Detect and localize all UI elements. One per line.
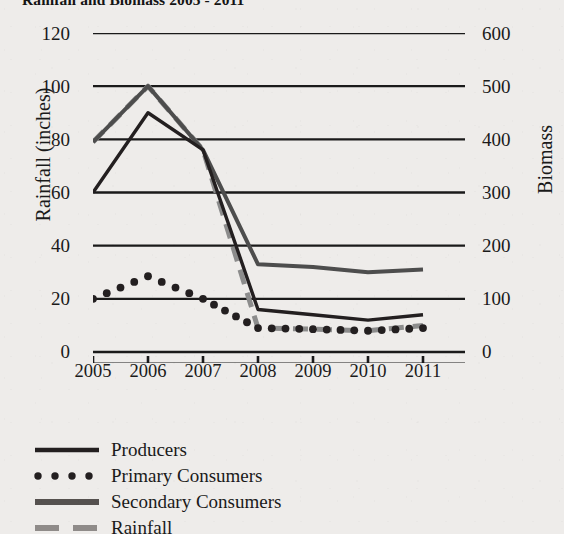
- y-tick-right-500: 500: [482, 77, 528, 96]
- legend-item-primary-consumers: Primary Consumers: [33, 463, 453, 489]
- y-tick-left-60: 60: [24, 183, 70, 202]
- datapoint-primary-consumers: [268, 324, 276, 332]
- y-tick-left-40: 40: [24, 236, 70, 255]
- legend-swatch-primary-consumers: [33, 463, 107, 489]
- datapoint-primary-consumers: [210, 301, 218, 309]
- y-tick-right-400: 400: [482, 130, 528, 149]
- datapoint-primary-consumers: [130, 278, 138, 286]
- datapoint-primary-consumers: [172, 284, 180, 292]
- y-tick-left-0: 0: [24, 342, 70, 361]
- y-tick-left-120: 120: [24, 24, 70, 43]
- plot-area: [93, 33, 465, 352]
- chart-legend: Producers Primary Consumers Secondary Co…: [33, 437, 453, 534]
- datapoint-primary-consumers: [199, 295, 207, 303]
- y-tick-right-600: 600: [482, 24, 528, 43]
- datapoint-primary-consumers: [378, 326, 386, 334]
- series-line-producers: [93, 113, 423, 320]
- datapoint-primary-consumers: [419, 324, 427, 332]
- datapoint-primary-consumers: [337, 326, 345, 334]
- chart-figure: Rainfall and Biomass 2005 - 2011 Rainfal…: [0, 0, 564, 534]
- datapoint-primary-consumers: [392, 326, 400, 334]
- y-tick-right-200: 200: [482, 236, 528, 255]
- datapoint-primary-consumers: [158, 278, 166, 286]
- datapoint-primary-consumers: [185, 289, 193, 297]
- plot-svg: [93, 33, 465, 363]
- y-tick-right-100: 100: [482, 289, 528, 308]
- legend-label-secondary-consumers: Secondary Consumers: [107, 492, 281, 512]
- legend-label-producers: Producers: [107, 440, 187, 460]
- datapoint-primary-consumers: [323, 326, 331, 334]
- datapoint-primary-consumers: [243, 318, 251, 326]
- legend-swatch-secondary-consumers: [33, 489, 107, 515]
- legend-item-secondary-consumers: Secondary Consumers: [33, 489, 453, 515]
- y-tick-right-0: 0: [482, 342, 528, 361]
- datapoint-primary-consumers: [309, 325, 317, 333]
- legend-label-rainfall: Rainfall: [107, 518, 172, 534]
- y-axis-right-ticks: 600 500 400 300 200 100 0: [482, 0, 542, 534]
- datapoint-primary-consumers: [350, 326, 358, 334]
- datapoint-primary-consumers: [221, 307, 229, 315]
- legend-swatch-producers: [33, 437, 107, 463]
- datapoint-primary-consumers: [364, 327, 372, 335]
- legend-item-producers: Producers: [33, 437, 453, 463]
- x-tick-2011: 2011: [388, 362, 458, 381]
- legend-item-rainfall: Rainfall: [33, 515, 453, 534]
- datapoint-primary-consumers: [282, 325, 290, 333]
- datapoint-primary-consumers: [93, 295, 97, 303]
- datapoint-primary-consumers: [117, 284, 125, 292]
- datapoint-primary-consumers: [254, 324, 262, 332]
- y-tick-left-100: 100: [24, 77, 70, 96]
- legend-label-primary-consumers: Primary Consumers: [107, 466, 262, 486]
- y-tick-right-300: 300: [482, 183, 528, 202]
- datapoint-primary-consumers: [405, 325, 413, 333]
- y-tick-left-20: 20: [24, 289, 70, 308]
- datapoint-primary-consumers: [144, 272, 152, 280]
- legend-swatch-rainfall: [33, 515, 107, 534]
- datapoint-primary-consumers: [232, 312, 240, 320]
- datapoint-primary-consumers: [295, 325, 303, 333]
- series-line-secondary-consumers: [93, 86, 423, 272]
- y-tick-left-80: 80: [24, 130, 70, 149]
- datapoint-primary-consumers: [103, 289, 111, 297]
